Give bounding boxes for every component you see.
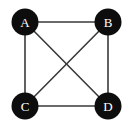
graph-diagram: A B C D <box>0 0 134 127</box>
graph-node-c[interactable]: C <box>12 93 39 120</box>
edge-layer <box>25 22 108 106</box>
graph-node-b[interactable]: B <box>95 9 122 36</box>
node-label-c: C <box>21 99 30 114</box>
node-label-a: A <box>20 15 30 30</box>
node-label-d: D <box>103 99 112 114</box>
graph-node-a[interactable]: A <box>12 9 39 36</box>
graph-node-d[interactable]: D <box>95 93 122 120</box>
graph-canvas: A B C D <box>0 0 134 127</box>
node-label-b: B <box>104 15 113 30</box>
